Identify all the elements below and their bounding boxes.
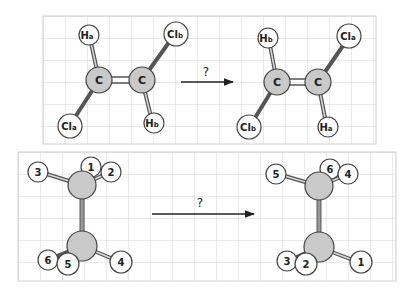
svg-text:3: 3 xyxy=(284,256,291,267)
hydrogen-4: 4 xyxy=(110,251,132,273)
atom-carbon-2: C xyxy=(129,67,155,93)
hydrogen-5: 5 xyxy=(57,253,79,275)
hydrogen-6: 6 xyxy=(38,250,58,270)
svg-text:1: 1 xyxy=(358,257,365,268)
svg-text:4: 4 xyxy=(345,169,352,180)
isomer-diagram: C C Ha Cla Clb Hb xyxy=(0,0,414,295)
hydrogen-1: 1 xyxy=(350,251,372,273)
atom-carbon-1: C xyxy=(86,67,112,93)
carbon-top xyxy=(68,171,96,199)
bottom-panel: 1 2 3 4 6 xyxy=(18,152,396,281)
svg-text:6: 6 xyxy=(327,164,334,175)
svg-text:6: 6 xyxy=(45,255,52,266)
atom-carbon-2: C xyxy=(305,69,331,95)
svg-text:3: 3 xyxy=(35,167,42,178)
atom-clb: Clb xyxy=(164,22,188,46)
svg-text:2: 2 xyxy=(108,167,115,178)
svg-text:C: C xyxy=(95,74,103,87)
svg-text:C: C xyxy=(138,74,146,87)
arrow-question-mark: ? xyxy=(203,65,209,79)
svg-text:2: 2 xyxy=(303,259,310,270)
svg-text:5: 5 xyxy=(65,259,72,270)
atom-carbon-1: C xyxy=(264,69,290,95)
svg-text:C: C xyxy=(273,76,281,89)
svg-text:C: C xyxy=(314,76,322,89)
svg-text:5: 5 xyxy=(273,169,280,180)
svg-text:4: 4 xyxy=(118,257,125,268)
hydrogen-3: 3 xyxy=(277,251,297,271)
arrow-question-mark: ? xyxy=(197,196,203,210)
atom-hb: Hb xyxy=(258,28,278,48)
carbon-top xyxy=(305,172,333,200)
atom-ha: Ha xyxy=(79,25,99,45)
hydrogen-2: 2 xyxy=(101,162,121,182)
atom-cla: Cla xyxy=(337,24,361,48)
hydrogen-3: 3 xyxy=(28,162,48,182)
hydrogen-2: 2 xyxy=(295,253,317,275)
atom-hb: Hb xyxy=(144,113,164,133)
hydrogen-5: 5 xyxy=(266,164,286,184)
atom-clb: Clb xyxy=(237,115,261,139)
atom-ha: Ha xyxy=(318,117,338,137)
hydrogen-4: 4 xyxy=(338,164,358,184)
top-panel: C C Ha Cla Clb Hb xyxy=(43,16,376,144)
atom-cla: Cla xyxy=(58,114,82,138)
svg-text:1: 1 xyxy=(88,162,95,173)
